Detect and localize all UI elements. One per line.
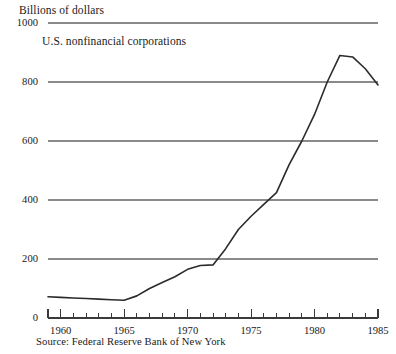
data-series-group — [48, 55, 378, 300]
x-axis-ticks-group — [48, 309, 378, 318]
x-tick-label-1980: 1980 — [293, 326, 337, 336]
x-tick-label-1960: 1960 — [39, 326, 83, 336]
line-chart-plot-area — [0, 0, 396, 354]
y-tick-label-400: 400 — [0, 195, 38, 205]
y-tick-label-0: 0 — [0, 313, 38, 323]
x-tick-label-1975: 1975 — [229, 326, 273, 336]
y-tick-label-600: 600 — [0, 136, 38, 146]
y-tick-label-1000: 1000 — [0, 18, 38, 28]
data-line-series-0 — [48, 55, 378, 300]
y-tick-label-800: 800 — [0, 77, 38, 87]
x-tick-label-1965: 1965 — [102, 326, 146, 336]
chart-figure: Billions of dollars U.S. nonfinancial co… — [0, 0, 396, 354]
series-annotation-label: U.S. nonfinancial corporations — [42, 35, 186, 47]
gridlines-group — [48, 23, 378, 259]
y-axis-unit-label: Billions of dollars — [19, 4, 104, 16]
x-tick-label-1970: 1970 — [166, 326, 210, 336]
source-note: Source: Federal Reserve Bank of New York — [36, 336, 226, 347]
y-tick-label-200: 200 — [0, 254, 38, 264]
x-tick-label-1985: 1985 — [356, 326, 396, 336]
